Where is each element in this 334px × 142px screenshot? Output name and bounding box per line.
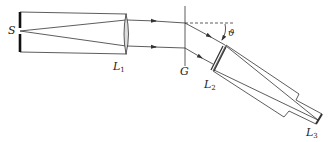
label-l2: L2 [204,79,216,92]
collimator-rays [20,20,126,46]
parallel-rays [127,20,185,48]
label-l1: L1 [113,61,125,74]
label-l3: L3 [306,127,318,140]
label-source: S [8,25,16,36]
telescope-rays [214,46,318,120]
label-grating: G [180,66,189,77]
telescope-tube [213,45,322,124]
label-angle: ϑ [228,29,234,38]
angle-arc [222,24,226,40]
spectrometer-diagram [0,0,334,142]
diffracted-rays [185,23,225,64]
